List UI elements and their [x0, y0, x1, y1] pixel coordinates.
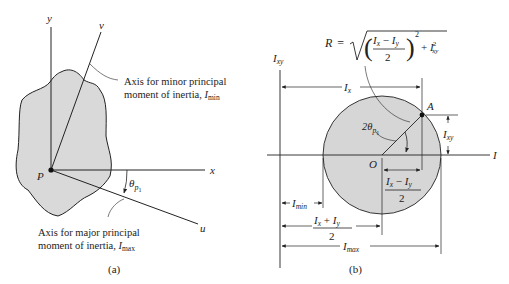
point-a-label: A — [426, 100, 434, 112]
formula-numerator: Ix − Iy — [372, 34, 399, 48]
minor-axis-note-line2: moment of inertia, Imin — [124, 89, 220, 102]
minor-axis-note-line1: Axis for minor principal — [124, 76, 226, 87]
point-p-label: P — [36, 170, 44, 182]
point-p — [48, 167, 53, 172]
i-axis-label: I — [492, 149, 498, 161]
dim-half-diff-denominator: 2 — [399, 192, 405, 204]
y-axis-label: y — [46, 12, 52, 24]
dim-half-diff-numerator: Ix − Iy — [385, 175, 412, 189]
formula-denominator: 2 — [385, 51, 391, 63]
formula-plus-term: + I2xy — [421, 40, 439, 55]
principal-moments-diagram: y x v u P θp1 Axis for minor principal m… — [0, 0, 509, 284]
paren-left: ( — [364, 33, 373, 62]
angle-arc-theta — [124, 170, 127, 193]
dim-half-sum-denominator: 2 — [329, 230, 335, 242]
formula-square: 2 — [415, 30, 419, 39]
dim-ixy-label: Ixy — [442, 128, 454, 142]
center-o-label: O — [369, 158, 377, 170]
paren-right: ) — [406, 33, 415, 62]
major-axis-leader — [108, 199, 124, 217]
x-axis-label: x — [209, 164, 215, 176]
dim-half-sum-numerator: Ix + Iy — [313, 214, 340, 228]
minor-axis-leader — [90, 64, 118, 80]
point-a — [420, 113, 425, 118]
panel-b-caption: (b) — [349, 263, 362, 276]
u-axis-label: u — [200, 222, 206, 234]
radius-formula-lhs: R = — [324, 36, 344, 50]
major-axis-note-line1: Axis for major principal — [38, 227, 140, 238]
ixy-axis-label: Ixy — [272, 52, 284, 66]
panel-b: Ixy I O A 2θp1 R = ( Ix − Iy — [267, 30, 498, 276]
v-axis-label: v — [99, 19, 104, 31]
panel-a: y x v u P θp1 Axis for minor principal m… — [16, 12, 226, 276]
angle-theta-label: θp1 — [129, 177, 141, 193]
dim-imin-label: Imin — [291, 197, 307, 211]
panel-a-caption: (a) — [108, 263, 121, 276]
major-axis-note-line2: moment of inertia, Imax — [38, 240, 135, 253]
cross-section-shape — [16, 70, 111, 216]
